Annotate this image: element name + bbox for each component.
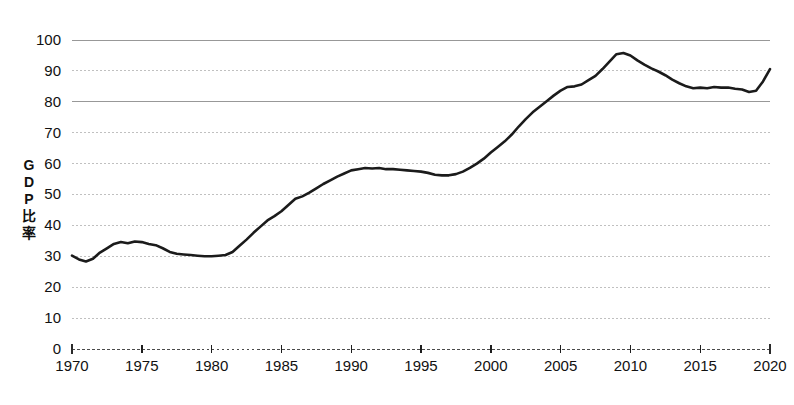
gridlines: [72, 40, 770, 318]
y-tick-label-90: 90: [44, 62, 61, 79]
y-axis-title: GDP比率: [22, 157, 36, 241]
x-tick-label-2010: 2010: [614, 357, 647, 374]
x-tick-label-2020: 2020: [753, 357, 786, 374]
y-axis-title-char-0: G: [24, 157, 35, 173]
y-tick-label-60: 60: [44, 155, 61, 172]
y-tick-label-20: 20: [44, 278, 61, 295]
y-tick-label-40: 40: [44, 216, 61, 233]
x-tick-label-1985: 1985: [265, 357, 298, 374]
y-tick-label-100: 100: [36, 31, 61, 48]
y-tick-label-80: 80: [44, 93, 61, 110]
data-series: [72, 53, 770, 262]
x-tick-label-1980: 1980: [195, 357, 228, 374]
gdp-ratio-line-chart: 1009080706050403020100 19701975198019851…: [0, 0, 794, 405]
y-axis-title-char-2: P: [24, 191, 33, 207]
x-tick-label-1975: 1975: [125, 357, 158, 374]
series-line-0: [72, 53, 770, 262]
x-tick-label-1995: 1995: [404, 357, 437, 374]
y-axis-title-char-1: D: [24, 174, 34, 190]
y-tick-label-0: 0: [53, 340, 61, 357]
y-axis-title-char-4: 率: [22, 225, 36, 241]
y-tick-label-30: 30: [44, 247, 61, 264]
chart-container: 1009080706050403020100 19701975198019851…: [0, 0, 794, 405]
y-axis-tick-labels: 1009080706050403020100: [36, 31, 61, 357]
x-tick-label-2000: 2000: [474, 357, 507, 374]
y-axis-title-char-3: 比: [22, 208, 36, 224]
x-axis: [72, 344, 770, 354]
x-tick-label-2005: 2005: [544, 357, 577, 374]
x-tick-label-1970: 1970: [55, 357, 88, 374]
y-tick-label-70: 70: [44, 124, 61, 141]
x-tick-label-1990: 1990: [335, 357, 368, 374]
x-tick-label-2015: 2015: [684, 357, 717, 374]
x-axis-tick-labels: 1970197519801985199019952000200520102015…: [55, 357, 786, 374]
y-tick-label-50: 50: [44, 185, 61, 202]
y-tick-label-10: 10: [44, 309, 61, 326]
